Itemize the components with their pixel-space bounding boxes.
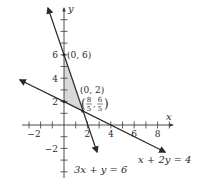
point-0-2 xyxy=(62,100,65,103)
y-tick-label-neg2: −2 xyxy=(45,144,58,154)
point-label-8-5-6-5: ( 8 5 , 6 5 ) xyxy=(81,96,109,113)
x-tick-label-8: 8 xyxy=(155,129,161,139)
svg-text:,: , xyxy=(93,100,96,109)
x-tick-label-6: 6 xyxy=(131,129,137,139)
svg-text:5: 5 xyxy=(98,105,102,113)
svg-text:): ) xyxy=(104,97,109,111)
point-label-0-6: (0, 6) xyxy=(67,50,91,60)
svg-text:8: 8 xyxy=(87,96,91,104)
x-tick-label-4: 4 xyxy=(108,129,114,139)
point-0-6 xyxy=(62,53,65,56)
x-tick-label-2: 2 xyxy=(85,129,91,139)
svg-text:6: 6 xyxy=(98,96,103,104)
y-axis-label: y xyxy=(67,3,74,14)
point-label-0-2: (0, 2) xyxy=(80,85,104,95)
equation-label-x-plus-2y: x + 2y = 4 xyxy=(138,154,192,165)
x-tick-label-neg2: −2 xyxy=(27,129,40,139)
equation-label-3x-plus-y: 3x + y = 6 xyxy=(74,164,128,175)
svg-text:5: 5 xyxy=(87,105,91,113)
line-x-plus-2y-eq-4-lower xyxy=(64,102,165,152)
svg-text:(: ( xyxy=(81,97,86,111)
y-tick-label-4: 4 xyxy=(52,74,58,84)
x-axis-label: x xyxy=(166,111,172,122)
y-tick-label-2: 2 xyxy=(52,97,58,107)
graph-canvas: y x −2 2 4 6 8 6 4 2 −2 (0, 6) (0, 2) ( … xyxy=(0,0,200,193)
y-tick-label-6: 6 xyxy=(52,50,58,60)
